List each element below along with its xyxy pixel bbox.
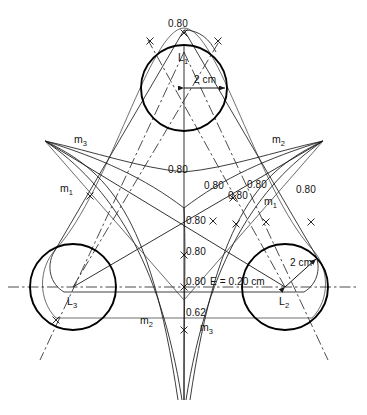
- eccentricity-label: E = 0.20 cm: [210, 277, 265, 287]
- label-m1-left: m1: [60, 183, 73, 197]
- chord-lines: [45, 45, 323, 400]
- label-m2-upper-right: m2: [272, 134, 285, 148]
- diagram-canvas: L1 L2 L3 m3 m2 m1 m1 m2 m3 0.80 0.80 0.8…: [0, 0, 367, 415]
- label-m3-upper-left: m3: [74, 134, 87, 148]
- dimension-mid-b: 0.80: [247, 180, 267, 190]
- center-lines: [8, 40, 359, 360]
- dimension-mid-left: 0.80: [168, 165, 188, 175]
- dimension-mid-c: 0.80: [228, 191, 248, 201]
- label-m3-bottom: m3: [200, 322, 213, 336]
- dimension-center: 0.80: [186, 216, 206, 226]
- label-m2-bottom: m2: [140, 315, 153, 329]
- label-m1-right: m1: [264, 196, 277, 210]
- dimension-bottom: 0.62: [186, 308, 206, 318]
- radius-label-L1: 2 cm: [194, 75, 216, 85]
- dimension-below-center: 0.80: [186, 247, 206, 257]
- dimension-mid-a: 0.80: [204, 181, 224, 191]
- radius-label-L2: 2 cm: [290, 258, 312, 268]
- label-L3: L3: [67, 296, 77, 310]
- label-L1: L1: [178, 52, 188, 66]
- dimension-axis: 0.80: [186, 277, 206, 287]
- dimension-top: 0.80: [168, 19, 188, 29]
- dimension-right: 0.80: [296, 185, 316, 195]
- label-L2: L2: [279, 296, 289, 310]
